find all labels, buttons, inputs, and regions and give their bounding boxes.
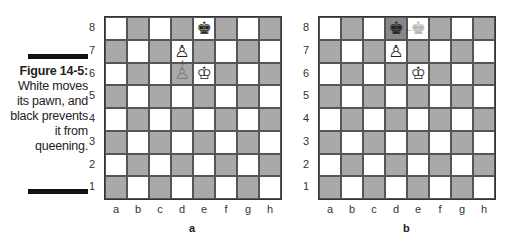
figure-number: Figure 14-5: <box>20 64 88 78</box>
square-c5 <box>149 85 171 108</box>
square-a6 <box>319 63 341 86</box>
square-c1 <box>149 176 171 199</box>
square-e4 <box>407 108 429 131</box>
square-e7 <box>193 40 215 63</box>
square-h8 <box>259 17 281 40</box>
square-g2 <box>451 154 473 177</box>
square-f6 <box>429 63 451 86</box>
square-e2 <box>407 154 429 177</box>
square-b8 <box>341 17 363 40</box>
square-c6 <box>149 63 171 86</box>
square-d4 <box>385 108 407 131</box>
square-g5 <box>237 85 259 108</box>
square-b1 <box>127 176 149 199</box>
square-f5 <box>215 85 237 108</box>
square-b3 <box>127 131 149 154</box>
square-c4 <box>149 108 171 131</box>
square-f5 <box>429 85 451 108</box>
square-h8 <box>473 17 495 40</box>
square-h5 <box>473 85 495 108</box>
rank-label: 5 <box>301 89 311 101</box>
square-c7 <box>363 40 385 63</box>
square-h4 <box>473 108 495 131</box>
square-c4 <box>363 108 385 131</box>
square-h3 <box>259 131 281 154</box>
square-g7 <box>237 40 259 63</box>
file-label: f <box>429 203 451 215</box>
square-a2 <box>319 154 341 177</box>
white-king-icon: ♔ <box>196 65 211 82</box>
square-c8 <box>149 17 171 40</box>
rank-label: 1 <box>301 180 311 192</box>
square-f4 <box>215 108 237 131</box>
rank-label: 5 <box>87 89 97 101</box>
file-label: e <box>407 203 429 215</box>
file-label: g <box>237 203 259 215</box>
square-h3 <box>473 131 495 154</box>
square-e5 <box>407 85 429 108</box>
square-d2 <box>171 154 193 177</box>
square-h6 <box>473 63 495 86</box>
rank-label: 1 <box>87 180 97 192</box>
square-c6 <box>363 63 385 86</box>
chessboard-b: ♚♚←♙♔ <box>318 16 496 200</box>
square-d5 <box>385 85 407 108</box>
square-d2 <box>385 154 407 177</box>
square-d1 <box>385 176 407 199</box>
board-label: b <box>403 222 410 234</box>
square-a5 <box>105 85 127 108</box>
square-e3 <box>193 131 215 154</box>
square-b4 <box>341 108 363 131</box>
square-b4 <box>127 108 149 131</box>
square-f1 <box>429 176 451 199</box>
square-e1 <box>193 176 215 199</box>
rank-label: 7 <box>87 44 97 56</box>
square-a3 <box>319 131 341 154</box>
square-f7 <box>215 40 237 63</box>
square-b7 <box>127 40 149 63</box>
square-g8 <box>451 17 473 40</box>
square-d6 <box>385 63 407 86</box>
caption-text: White moves its pawn, and black prevents… <box>10 79 88 153</box>
white-pawn-origin-icon: ♙ <box>174 65 189 82</box>
square-f3 <box>429 131 451 154</box>
square-h2 <box>259 154 281 177</box>
square-g4 <box>451 108 473 131</box>
square-f1 <box>215 176 237 199</box>
square-e3 <box>407 131 429 154</box>
file-label: g <box>451 203 473 215</box>
square-g1 <box>237 176 259 199</box>
square-c8 <box>363 17 385 40</box>
rank-label: 4 <box>301 112 311 124</box>
square-a7 <box>319 40 341 63</box>
figure-caption: Figure 14-5: White moves its pawn, and b… <box>4 64 88 154</box>
square-h5 <box>259 85 281 108</box>
square-e7 <box>407 40 429 63</box>
square-a1 <box>319 176 341 199</box>
square-d3 <box>385 131 407 154</box>
square-g5 <box>451 85 473 108</box>
square-a6 <box>105 63 127 86</box>
square-a3 <box>105 131 127 154</box>
square-f3 <box>215 131 237 154</box>
file-label: f <box>215 203 237 215</box>
square-a1 <box>105 176 127 199</box>
square-f2 <box>215 154 237 177</box>
black-king-icon: ♚ <box>388 20 403 37</box>
square-e1 <box>407 176 429 199</box>
square-c5 <box>363 85 385 108</box>
square-h1 <box>259 176 281 199</box>
square-g3 <box>451 131 473 154</box>
square-a7 <box>105 40 127 63</box>
square-e8: ♚← <box>407 17 429 40</box>
board-label: a <box>189 222 195 234</box>
file-label: h <box>473 203 495 215</box>
square-f4 <box>429 108 451 131</box>
file-label: c <box>363 203 385 215</box>
square-g3 <box>237 131 259 154</box>
square-h7 <box>473 40 495 63</box>
square-h7 <box>259 40 281 63</box>
square-b5 <box>341 85 363 108</box>
square-b2 <box>127 154 149 177</box>
square-d7: ♙ <box>385 40 407 63</box>
